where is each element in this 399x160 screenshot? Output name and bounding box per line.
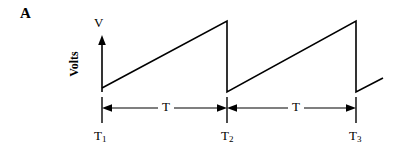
period-dimension-lines xyxy=(102,104,356,112)
waveform-drawing xyxy=(0,0,399,160)
voltage-axis-symbol: V xyxy=(94,16,103,29)
time-label-t3: T3 xyxy=(349,129,361,142)
voltage-axis-arrow xyxy=(98,35,106,92)
time-label-t1-base: T xyxy=(94,128,102,143)
time-label-t1: T1 xyxy=(94,129,106,142)
panel-letter: A xyxy=(20,6,31,21)
time-label-t2: T2 xyxy=(221,129,233,142)
sawtooth-trace xyxy=(102,21,383,92)
time-tick-marks xyxy=(102,97,356,123)
time-label-t2-base: T xyxy=(221,128,229,143)
time-label-t3-subscript: 3 xyxy=(357,134,362,144)
period-arrowhead-right-1 xyxy=(217,104,227,112)
period-arrowhead-left-1 xyxy=(102,104,112,112)
voltage-axis-label: Volts xyxy=(68,38,80,90)
period-arrowhead-left-2 xyxy=(227,104,237,112)
time-label-t1-subscript: 1 xyxy=(102,134,107,144)
time-label-t2-subscript: 2 xyxy=(229,134,234,144)
period-label-1: T xyxy=(158,100,174,113)
period-label-2: T xyxy=(288,100,304,113)
period-arrowhead-right-2 xyxy=(346,104,356,112)
voltage-axis-arrowhead xyxy=(98,35,106,45)
time-label-t3-base: T xyxy=(349,128,357,143)
sawtooth-waveform-figure: A V Volts T T T1 T2 T3 xyxy=(0,0,399,160)
